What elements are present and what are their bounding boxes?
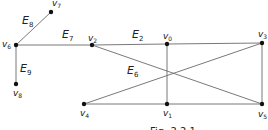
- vertex-v5: [260, 102, 264, 106]
- vertex-label-v4: v4: [80, 108, 89, 119]
- edge-v2-v5: [92, 45, 262, 104]
- vertex-v4: [82, 102, 86, 106]
- vertex-v0: [165, 42, 169, 46]
- edge-label-E6: E6: [127, 64, 139, 79]
- vertex-v7: [49, 10, 53, 14]
- vertex-label-v6: v6: [2, 39, 11, 50]
- vertex-label-v0: v0: [163, 31, 172, 42]
- vertex-label-v7: v7: [52, 0, 61, 9]
- vertex-label-v5: v5: [258, 109, 267, 120]
- figure-caption: Fig. 2.2.1: [150, 126, 196, 130]
- vertex-label-v8: v8: [13, 88, 22, 99]
- vertex-label-v3: v3: [258, 29, 267, 40]
- vertex-v1: [165, 102, 169, 106]
- edges-layer: [16, 12, 262, 104]
- vertex-v6: [14, 43, 18, 47]
- edge-v2-v0: [92, 44, 167, 45]
- vertex-v3: [260, 41, 264, 45]
- edge-label-E9: E9: [20, 62, 31, 77]
- graph-diagram: E8E9E7E2E6 v0v1v2v3v4v5v6v7v8 Fig. 2.2.1: [0, 0, 268, 130]
- vertex-v8: [14, 82, 18, 86]
- edge-v0-v3: [167, 43, 262, 44]
- vertex-label-v2: v2: [88, 33, 97, 44]
- edge-label-E7: E7: [62, 28, 73, 43]
- vertex-label-v1: v1: [163, 108, 172, 119]
- edge-label-E8: E8: [22, 14, 33, 29]
- edge-label-E2: E2: [132, 28, 143, 43]
